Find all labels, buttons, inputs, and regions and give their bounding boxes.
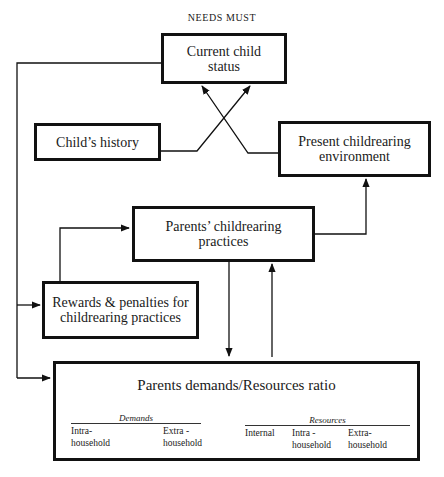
needs-must-label: NEEDS MUST — [0, 12, 444, 23]
node-present-childrearing-environment: Present childrearing environment — [278, 121, 431, 177]
node-childs-history: Child’s history — [34, 123, 161, 161]
demands-col-extra: Extra - household — [163, 425, 202, 449]
diagram-canvas: NEEDS MUST Current child status Child’s … — [0, 0, 444, 477]
demands-heading: Demands — [71, 413, 201, 424]
node-label-line: childrearing practices — [52, 310, 188, 325]
resources-col-intra: Intra - household — [292, 427, 331, 451]
node-label-line: environment — [298, 149, 410, 164]
node-rewards-penalties: Rewards & penalties for childrearing pra… — [42, 281, 199, 339]
node-parents-childrearing-practices: Parents’ childrearing practices — [132, 206, 315, 262]
edge-env-to-status — [202, 86, 278, 153]
node-label-line: Rewards & penalties for — [52, 295, 188, 310]
resources-col-internal: Internal — [245, 427, 275, 439]
node-label-line: Current child — [187, 44, 261, 59]
edge-history-to-status — [160, 86, 250, 151]
node-label-line: status — [187, 59, 261, 74]
edge-practices-to-env — [314, 179, 366, 234]
resources-heading: Resources — [245, 415, 410, 426]
node-label-line: Present childrearing — [298, 134, 410, 149]
node-label-line: practices — [166, 234, 282, 249]
node-current-child-status: Current child status — [161, 33, 287, 84]
node-label: Child’s history — [56, 135, 139, 150]
node-label-line: Parents’ childrearing — [166, 219, 282, 234]
demands-col-intra: Intra- household — [71, 425, 110, 449]
resources-col-extra: Extra- household — [348, 427, 387, 451]
ratio-title: Parents demands/Resources ratio — [56, 378, 417, 393]
edge-rewards-to-practices — [60, 228, 129, 281]
node-demands-resources-ratio: Parents demands/Resources ratio Demands … — [53, 361, 420, 461]
